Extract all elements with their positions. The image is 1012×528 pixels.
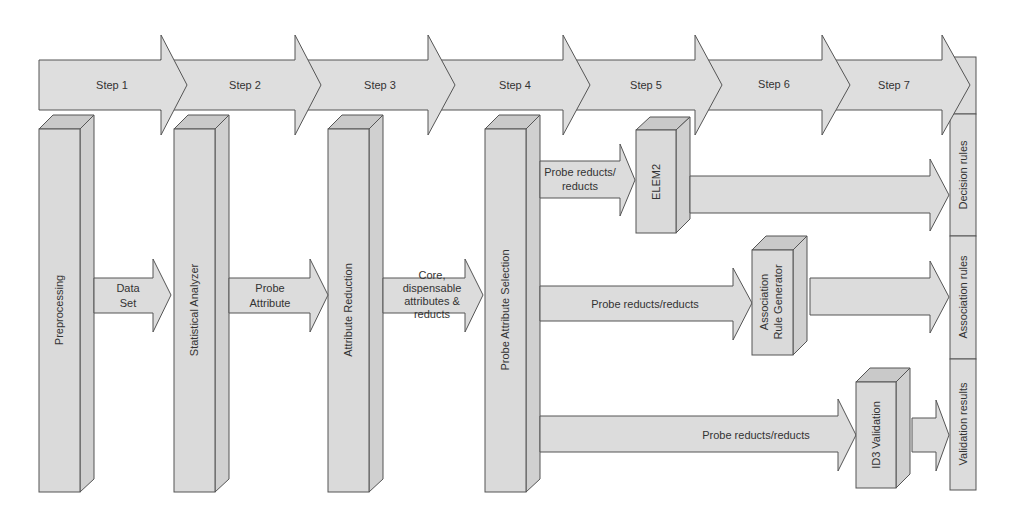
module-probe-attribute-selection: Probe Attribute Selection — [485, 115, 540, 492]
module-preprocessing: Preprocessing — [39, 115, 94, 492]
flow-core-line2: dispensable — [403, 282, 462, 294]
step-3-label: Step 3 — [364, 79, 396, 91]
flow-to-association-rules — [810, 261, 949, 333]
flow-data-set-line2: Set — [120, 297, 137, 309]
step-6-label: Step 6 — [758, 78, 790, 90]
flow-to-elem2-line2: reducts — [562, 180, 599, 192]
flow-to-association-rule-generator: Probe reducts/reducts — [540, 268, 752, 340]
module-assoc-label-line2: Rule Generator — [772, 264, 784, 340]
output-decision-rules-label: Decision rules — [957, 140, 969, 210]
flow-to-decision-rules — [690, 159, 949, 231]
module-attribute-reduction: Attribute Reduction — [328, 115, 383, 492]
module-attribute-reduction-label: Attribute Reduction — [342, 263, 354, 357]
module-elem2: ELEM2 — [636, 117, 690, 233]
output-validation-results-label: Validation results — [957, 382, 969, 465]
module-elem2-label: ELEM2 — [650, 164, 662, 200]
step-4-label: Step 4 — [499, 79, 531, 91]
step-5-label: Step 5 — [630, 79, 662, 91]
flow-probe-attribute-line2: Attribute — [250, 297, 291, 309]
process-flow-diagram: Decision rules Association rules Validat… — [0, 0, 1012, 528]
module-id3-validation: ID3 Validation — [856, 368, 910, 488]
step-2-label: Step 2 — [229, 79, 261, 91]
module-probe-attribute-selection-label: Probe Attribute Selection — [499, 249, 511, 370]
flow-data-set-line1: Data — [116, 282, 140, 294]
module-statistical-analyzer: Statistical Analyzer — [174, 115, 229, 492]
module-id3-validation-label: ID3 Validation — [870, 401, 882, 469]
step-1-label: Step 1 — [96, 79, 128, 91]
flow-core-dispensable: Core, dispensable attributes & reducts — [383, 259, 483, 332]
module-statistical-analyzer-label: Statistical Analyzer — [188, 264, 200, 357]
output-association-rules-label: Association rules — [957, 255, 969, 339]
flow-to-id3-validation: Probe reducts/reducts — [540, 399, 856, 471]
flow-probe-attribute-line1: Probe — [255, 282, 284, 294]
flow-to-id3-label: Probe reducts/reducts — [702, 429, 810, 441]
flow-probe-attribute: Probe Attribute — [229, 259, 328, 332]
module-association-rule-generator: Association Rule Generator — [752, 236, 807, 355]
flow-to-validation-results — [912, 400, 949, 471]
step-7-label: Step 7 — [878, 79, 910, 91]
flow-to-assoc-label: Probe reducts/reducts — [591, 298, 699, 310]
flow-core-line4: reducts — [414, 308, 451, 320]
flow-data-set: Data Set — [94, 259, 171, 332]
flow-core-line1: Core, — [419, 269, 446, 281]
module-preprocessing-label: Preprocessing — [53, 275, 65, 345]
module-assoc-label-line1: Association — [758, 274, 770, 330]
flow-to-elem2-line1: Probe reducts/ — [544, 166, 616, 178]
output-column: Decision rules Association rules Validat… — [950, 57, 976, 490]
flow-core-line3: attributes & — [404, 295, 460, 307]
flow-to-elem2: Probe reducts/ reducts — [540, 144, 635, 216]
